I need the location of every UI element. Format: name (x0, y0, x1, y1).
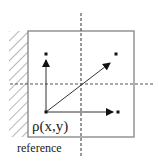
origin-dot (45, 111, 48, 114)
diagram-canvas: ρ(x,y) reference (0, 0, 158, 164)
diagonal-target-dot (115, 53, 118, 56)
up-target-dot (45, 53, 48, 56)
right-target-dot (117, 111, 120, 114)
reference-label: reference (17, 141, 62, 155)
diagonal-arrow (46, 63, 110, 112)
point-label: ρ(x,y) (32, 118, 68, 135)
